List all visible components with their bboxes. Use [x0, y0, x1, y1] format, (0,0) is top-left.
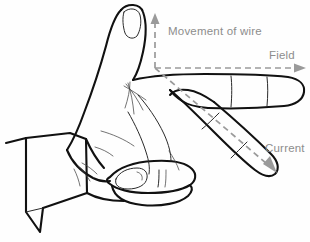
movement-arrowhead: [151, 13, 160, 24]
index-finger: [133, 74, 304, 108]
sleeve-cuff: [6, 133, 87, 232]
field-arrowhead: [294, 64, 306, 73]
hand-illustration: [6, 5, 304, 232]
label-current: Current: [265, 142, 305, 154]
thumb: [67, 5, 146, 150]
diagram-canvas: Movement of wire Field Current: [0, 0, 310, 242]
label-movement-of-wire: Movement of wire: [168, 25, 262, 37]
hand-rule-diagram: Movement of wire Field Current: [0, 0, 310, 242]
palm: [67, 139, 124, 201]
field-arrow: [155, 64, 306, 73]
label-field: Field: [269, 49, 295, 61]
folded-fingers: [107, 161, 195, 206]
movement-of-wire-arrow: [151, 13, 160, 68]
